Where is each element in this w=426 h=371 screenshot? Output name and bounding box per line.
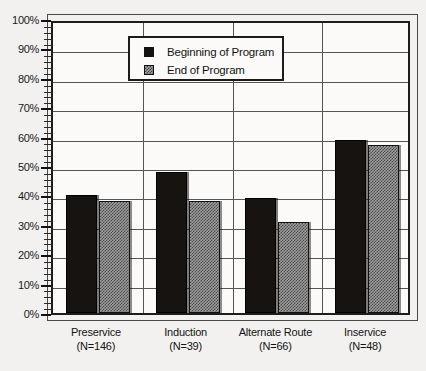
y-tick-major-30 [41,226,51,228]
y-tick-minor-28 [44,233,51,234]
y-tick-minor-26 [44,239,51,240]
y-tick-minor-54 [44,156,51,157]
x-axis-category-count: (N=39) [141,339,231,353]
y-tick-minor-18 [44,262,51,263]
x-axis-category-count: (N=146) [51,339,141,353]
x-axis-category-name: Induction [141,325,231,339]
y-tick-minor-78 [44,86,51,87]
y-tick-minor-36 [44,209,51,210]
bar-preservice-end-of-program [99,201,130,313]
y-tick-label-70pct: 70% [0,102,39,114]
y-tick-minor-44 [44,186,51,187]
y-tick-major-60 [41,138,51,140]
y-tick-minor-12 [44,280,51,281]
y-tick-minor-62 [44,133,51,134]
legend-item-beginning-of-program: Beginning of Program [144,43,282,60]
y-tick-minor-68 [44,115,51,116]
y-tick-minor-92 [44,45,51,46]
bar-alternate-route-beginning-of-program [245,198,276,313]
bar-inservice-end-of-program [368,145,399,313]
chart-legend: Beginning of Program End of Program [128,36,284,81]
bar-induction-end-of-program [189,201,220,313]
x-axis-category-count: (N=66) [231,339,321,353]
y-tick-minor-52 [44,162,51,163]
y-tick-major-0 [41,314,51,316]
x-axis-label-preservice: Preservice(N=146) [51,325,141,353]
y-tick-major-20 [41,255,51,257]
y-axis-line [51,21,53,315]
bar-chart: 0%10%20%30%40%50%60%70%80%90%100% Beginn… [0,0,426,371]
y-tick-major-10 [41,285,51,287]
y-tick-minor-96 [44,33,51,34]
y-tick-major-50 [41,167,51,169]
x-axis-label-inservice: Inservice(N=48) [320,325,410,353]
y-tick-label-50pct: 50% [0,161,39,173]
y-tick-minor-86 [44,62,51,63]
x-axis-category-count: (N=48) [320,339,410,353]
y-tick-label-80pct: 80% [0,73,39,85]
y-tick-minor-94 [44,39,51,40]
y-tick-label-20pct: 20% [0,249,39,261]
y-tick-minor-58 [44,144,51,145]
y-tick-major-90 [41,49,51,51]
legend-swatch-solid-icon [144,47,154,57]
y-tick-minor-42 [44,192,51,193]
y-tick-minor-22 [44,250,51,251]
bar-preservice-beginning-of-program [66,195,97,313]
y-tick-minor-66 [44,121,51,122]
y-tick-label-10pct: 10% [0,279,39,291]
y-tick-minor-88 [44,56,51,57]
y-tick-major-80 [41,79,51,81]
x-axis-category-name: Alternate Route [231,325,321,339]
group-separator-3 [322,23,323,313]
y-tick-minor-56 [44,150,51,151]
y-tick-label-0pct: 0% [0,308,39,320]
legend-swatch-checker-icon [144,65,154,75]
y-tick-minor-82 [44,74,51,75]
y-tick-minor-8 [44,291,51,292]
x-axis-category-name: Inservice [320,325,410,339]
bar-alternate-route-end-of-program [278,222,309,313]
y-tick-minor-98 [44,27,51,28]
y-tick-label-60pct: 60% [0,132,39,144]
y-tick-minor-2 [44,309,51,310]
y-tick-minor-6 [44,297,51,298]
y-tick-minor-76 [44,92,51,93]
legend-label-end-of-program: End of Program [167,64,245,76]
gridline-80 [53,82,408,83]
y-tick-minor-64 [44,127,51,128]
y-tick-minor-14 [44,274,51,275]
y-tick-minor-34 [44,215,51,216]
x-axis-label-alternate-route: Alternate Route(N=66) [231,325,321,353]
y-tick-minor-72 [44,103,51,104]
bar-induction-beginning-of-program [156,172,187,313]
legend-label-beginning-of-program: Beginning of Program [167,46,274,58]
y-tick-label-40pct: 40% [0,190,39,202]
y-tick-minor-46 [44,180,51,181]
x-axis-category-name: Preservice [51,325,141,339]
gridline-70 [53,111,408,112]
y-tick-minor-38 [44,203,51,204]
y-tick-major-40 [41,196,51,198]
y-tick-minor-4 [44,303,51,304]
y-tick-minor-24 [44,244,51,245]
y-tick-minor-74 [44,97,51,98]
y-tick-major-100 [41,20,51,22]
y-tick-minor-32 [44,221,51,222]
bar-inservice-beginning-of-program [335,140,366,313]
y-tick-label-90pct: 90% [0,43,39,55]
y-tick-minor-84 [44,68,51,69]
legend-item-end-of-program: End of Program [144,61,282,78]
y-tick-minor-16 [44,268,51,269]
y-tick-label-30pct: 30% [0,220,39,232]
y-tick-label-100pct: 100% [0,14,39,26]
y-tick-major-70 [41,108,51,110]
y-tick-minor-48 [44,174,51,175]
x-axis-label-induction: Induction(N=39) [141,325,231,353]
